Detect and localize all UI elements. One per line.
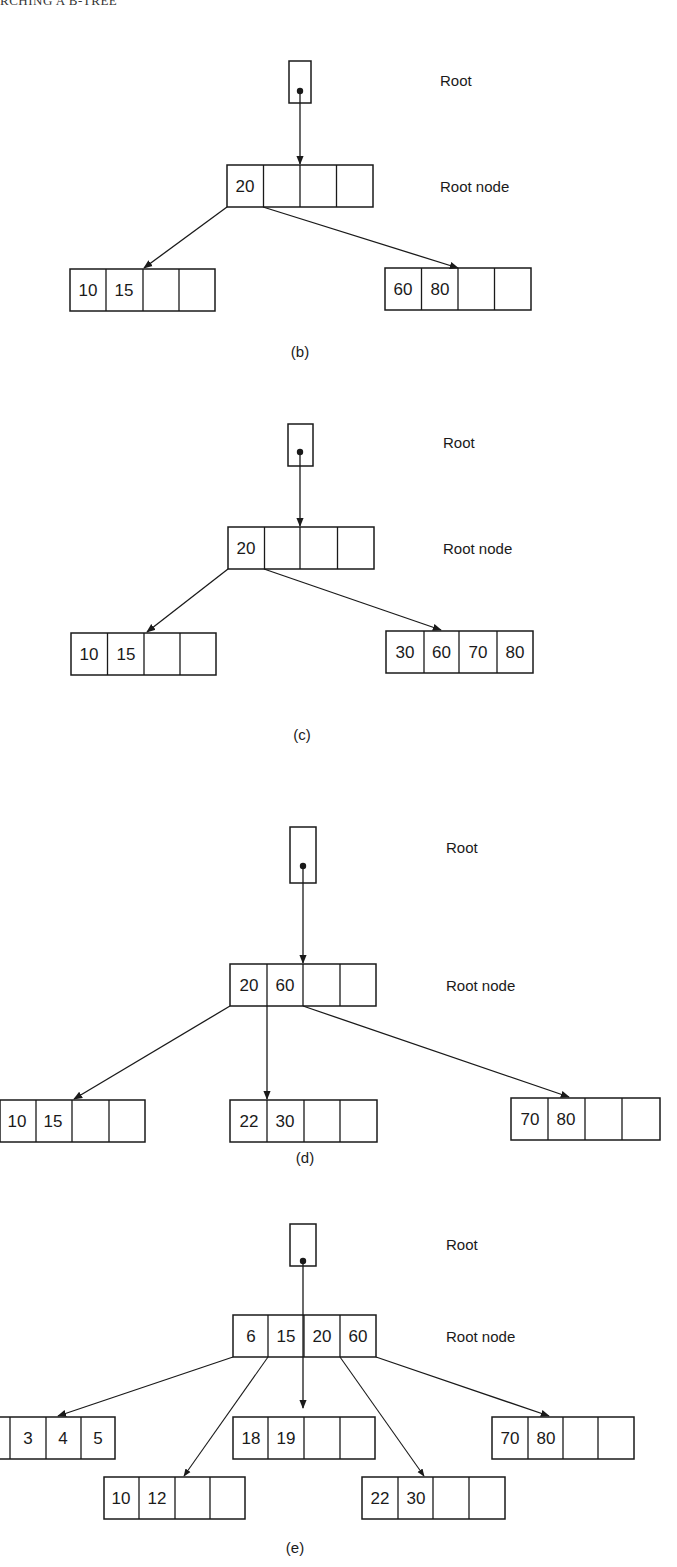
root-pointer: [290, 827, 316, 963]
key-cell: 10: [80, 645, 99, 664]
leaf-node: 10 15: [0, 1100, 145, 1142]
key-cell: 80: [557, 1110, 576, 1129]
root-pointer: [290, 1224, 316, 1408]
key-cell: 22: [240, 1112, 259, 1131]
key-cell: 4: [58, 1429, 67, 1448]
key-cell: 15: [44, 1112, 63, 1131]
root-label: Root: [446, 1236, 479, 1253]
figure-e: Root 6 15 20 60 Root node 3 4 5: [0, 1224, 634, 1556]
root-node: 20 60: [230, 964, 376, 1006]
figure-b: Root 20 Root node 10 15 60: [70, 61, 531, 360]
key-cell: 20: [313, 1327, 332, 1346]
leaf-node: 10 15: [70, 269, 215, 311]
key-cell: 22: [371, 1489, 390, 1508]
key-cell: 15: [115, 281, 134, 300]
leaf-node: 10 12: [104, 1477, 245, 1519]
root-node: 20: [228, 527, 374, 569]
key-cell: 30: [396, 643, 415, 662]
root-node-label: Root node: [443, 540, 512, 557]
key-cell: 20: [236, 177, 255, 196]
key-cell: 15: [117, 645, 136, 664]
leaf-node: 60 80: [385, 268, 531, 310]
key-cell: 70: [521, 1110, 540, 1129]
root-node-label: Root node: [446, 977, 515, 994]
key-cell: 18: [242, 1429, 261, 1448]
root-node-label: Root node: [446, 1328, 515, 1345]
figure-d: Root 20 60 Root node 10 15 22 30: [0, 827, 660, 1166]
b-tree-figures: Root 20 Root node 10 15 60: [0, 0, 677, 1567]
key-cell: 10: [79, 281, 98, 300]
figure-caption: (b): [291, 343, 309, 360]
key-cell: 70: [469, 643, 488, 662]
key-cell: 80: [506, 643, 525, 662]
key-cell: 80: [537, 1429, 556, 1448]
key-cell: 20: [240, 976, 259, 995]
key-cell: 70: [501, 1429, 520, 1448]
child-pointer-arrow: [74, 1006, 230, 1099]
leaf-node: 70 80: [492, 1417, 634, 1459]
child-pointer-arrow: [58, 1357, 233, 1416]
key-cell: 60: [276, 976, 295, 995]
child-pointer-arrow: [147, 569, 228, 632]
key-cell: 20: [237, 539, 256, 558]
child-pointer-arrow: [263, 207, 458, 268]
key-cell: 60: [349, 1327, 368, 1346]
key-cell: 6: [246, 1327, 255, 1346]
leaf-node: 70 80: [511, 1098, 660, 1140]
root-node: 20: [227, 165, 373, 207]
leaf-node: 22 30: [230, 1100, 377, 1142]
key-cell: 10: [8, 1112, 27, 1131]
key-cell: 60: [394, 280, 413, 299]
root-label: Root: [443, 434, 476, 451]
figure-c: Root 20 Root node 10 15 30 60 70: [71, 424, 533, 743]
key-cell: 3: [23, 1429, 32, 1448]
key-cell: 30: [276, 1112, 295, 1131]
key-cell: 80: [431, 280, 450, 299]
leaf-node: 18 19: [233, 1417, 375, 1459]
root-label: Root: [446, 839, 479, 856]
key-cell: 60: [432, 643, 451, 662]
child-pointer-arrow: [303, 1006, 569, 1097]
key-cell: 15: [277, 1327, 296, 1346]
key-cell: 10: [112, 1489, 131, 1508]
leaf-node: 22 30: [362, 1477, 505, 1519]
child-pointer-arrow: [144, 207, 227, 268]
root-label: Root: [440, 72, 473, 89]
root-pointer: [289, 61, 311, 164]
key-cell: 5: [93, 1429, 102, 1448]
leaf-node: 10 15: [71, 633, 216, 675]
root-pointer: [288, 424, 313, 526]
key-cell: 30: [407, 1489, 426, 1508]
key-cell: 12: [148, 1489, 167, 1508]
root-node: 6 15 20 60: [233, 1315, 376, 1357]
child-pointer-arrow: [376, 1357, 549, 1416]
key-cell: 19: [277, 1429, 296, 1448]
figure-caption: (d): [296, 1149, 314, 1166]
figure-caption: (e): [286, 1539, 304, 1556]
figure-caption: (c): [293, 726, 311, 743]
leaf-node: 3 4 5: [0, 1417, 115, 1459]
leaf-node: 30 60 70 80: [386, 631, 533, 673]
root-node-label: Root node: [440, 178, 509, 195]
child-pointer-arrow: [264, 569, 441, 630]
